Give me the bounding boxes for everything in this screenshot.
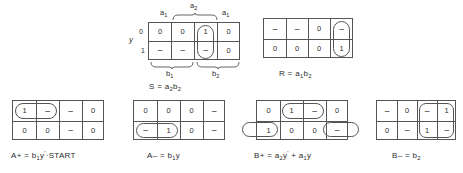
kmap-cell: 1: [437, 101, 456, 121]
kmap-cell: –: [437, 121, 456, 140]
diagram-canvas: a1 a2 a1 y 0 1 0 0 1 0 – –: [0, 0, 463, 173]
kmap-cell: –: [417, 101, 437, 121]
kmap-cell: –: [397, 121, 417, 140]
kmap-cell: –: [377, 101, 397, 121]
kmap-cell: 0: [377, 121, 397, 140]
kmap-b-minus-grid: – 0 – 1 0 – 1 –: [376, 100, 456, 140]
kmap-cell: 1: [417, 121, 437, 140]
equation-b-minus: B– = b2: [392, 152, 421, 160]
kmap-group-b-minus: – 0 – 1 0 – 1 – B– = b2: [0, 0, 463, 173]
kmap-cell: 0: [397, 101, 417, 121]
